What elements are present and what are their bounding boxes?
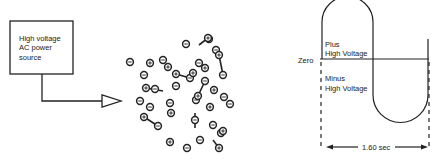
arrow-right-icon [421,145,428,150]
negative-charge-icon [152,86,159,93]
positive-charge-icon [211,87,218,94]
negative-charge-icon [184,145,191,152]
zero-label: Zero [298,56,313,65]
negative-charge-icon [183,41,190,48]
positive-charge-icon [216,145,223,152]
negative-charge-icon [221,94,228,101]
positive-charge-icon [205,35,212,42]
positive-charge-icon [220,128,227,135]
connector-line [42,74,102,101]
power-source-label-line1: High voltage [19,34,61,43]
plus-label: Plus [325,40,340,49]
negative-charge-icon [141,72,148,79]
negative-charge-icon [155,123,162,130]
period-label: 1.60 sec [362,143,390,152]
negative-charge-icon [192,117,199,124]
nozzle-icon [102,95,121,107]
positive-charge-icon [167,139,174,146]
positive-charge-icon [202,65,209,72]
positive-charge-icon [141,114,148,121]
negative-charge-icon [196,60,203,67]
negative-charge-icon [197,137,204,144]
negative-charge-icon [173,83,180,90]
negative-charge-icon [137,98,144,105]
negative-charge-icon [167,100,174,107]
charged-particles [127,35,234,152]
positive-charge-icon [173,71,180,78]
minus-label: Minus [325,74,345,83]
positive-charge-icon [168,110,175,117]
negative-charge-icon [160,57,167,64]
positive-charge-icon [195,93,202,100]
negative-charge-icon [227,101,234,108]
electrostatic-diagram [0,0,436,165]
power-source-label-line2: AC power [19,43,52,52]
minus-high-voltage-label: High Voltage [325,84,368,93]
negative-charge-icon [220,72,227,79]
plus-high-voltage-label: High Voltage [325,49,368,58]
negative-charge-icon [202,78,209,85]
positive-charge-icon [207,104,214,111]
negative-charge-icon [147,104,154,111]
power-source-label-line3: source [19,53,42,62]
arrow-left-icon [326,145,333,150]
positive-charge-icon [143,85,150,92]
positive-charge-icon [165,64,172,71]
positive-charge-icon [190,70,197,77]
positive-charge-icon [147,60,154,67]
negative-charge-icon [127,59,134,66]
positive-charge-icon [216,52,223,59]
negative-charge-icon [210,122,217,129]
